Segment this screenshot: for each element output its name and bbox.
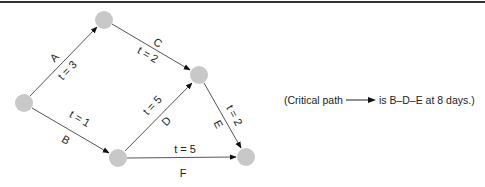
node-end xyxy=(237,148,255,166)
arrow-icon xyxy=(346,94,376,106)
edge-f-name: F xyxy=(180,167,187,179)
critical-path-note: (Critical path is B–D–E at 8 days.) xyxy=(284,94,475,106)
edge-f xyxy=(127,157,236,158)
edge-d-name: D xyxy=(159,114,173,128)
edge-a-duration: t = 3 xyxy=(55,58,79,82)
edge-b-name: B xyxy=(60,133,72,147)
edge-a xyxy=(30,27,97,96)
edge-f-duration: t = 5 xyxy=(174,143,196,155)
edge-b-duration: t = 1 xyxy=(68,108,93,129)
edge-d-duration: t = 5 xyxy=(140,93,164,117)
edge-a-name: A xyxy=(47,50,61,64)
edge-d xyxy=(125,83,192,151)
edge-e-name: E xyxy=(212,118,226,130)
node-mid xyxy=(190,66,208,84)
note-prefix: (Critical path xyxy=(284,94,343,106)
note-suffix: is B–D–E at 8 days.) xyxy=(379,94,475,106)
node-top xyxy=(95,11,113,29)
edge-c-name: C xyxy=(152,35,165,49)
node-bottom xyxy=(109,149,127,167)
node-start xyxy=(15,94,33,112)
